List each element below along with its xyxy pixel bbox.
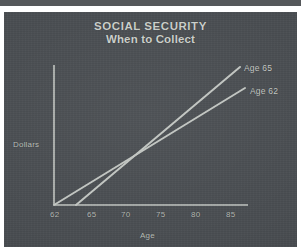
x-tick-label-80: 80 [191, 210, 200, 219]
x-tick-label-62: 62 [50, 210, 59, 219]
x-axis-title: Age [140, 231, 155, 240]
series-label-age-62: Age 62 [250, 86, 278, 96]
scan-top-band [0, 0, 301, 6]
plot-area [4, 12, 297, 247]
series-line-age-62 [54, 88, 245, 205]
screenshot-root: SOCIAL SECURITY When to Collect Age 65 A… [0, 0, 301, 252]
x-tick-label-65: 65 [87, 210, 96, 219]
x-tick-label-85: 85 [226, 210, 235, 219]
x-tick-label-75: 75 [156, 210, 165, 219]
x-tick-label-70: 70 [121, 210, 130, 219]
series-line-age-65 [76, 67, 240, 205]
series-label-age-65: Age 65 [244, 63, 272, 73]
y-axis-title: Dollars [13, 140, 39, 149]
chart-panel: SOCIAL SECURITY When to Collect Age 65 A… [4, 12, 297, 247]
